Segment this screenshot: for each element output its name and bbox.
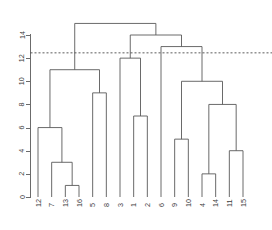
leaf-label: 16 xyxy=(75,199,84,207)
leaf-label: 2 xyxy=(143,203,152,207)
leaf-label: 1 xyxy=(129,203,138,207)
dendrogram-link xyxy=(93,93,107,197)
y-tick-label: 2 xyxy=(18,172,27,176)
y-tick-label: 8 xyxy=(18,102,27,106)
dendrogram-link xyxy=(50,70,100,128)
dendrogram-link xyxy=(175,139,189,197)
dendrogram-link xyxy=(202,174,216,197)
leaf-label: 6 xyxy=(157,203,166,207)
leaf-label: 13 xyxy=(61,199,70,207)
y-tick-label: 4 xyxy=(18,149,27,153)
leaf-label: 5 xyxy=(88,203,97,207)
dendrogram-link xyxy=(229,151,243,197)
leaf-label: 12 xyxy=(34,199,43,207)
dendrogram-link xyxy=(52,162,73,197)
leaf-label: 14 xyxy=(211,199,220,207)
y-tick-group: 02468101214 xyxy=(18,31,31,199)
leaf-label: 9 xyxy=(170,203,179,207)
y-tick-label: 6 xyxy=(18,126,27,130)
dendrogram-link xyxy=(209,104,236,173)
leaf-label: 4 xyxy=(198,203,207,207)
y-tick-label: 14 xyxy=(18,31,27,39)
dendrogram-link xyxy=(134,116,148,197)
leaf-label: 7 xyxy=(47,203,56,207)
dendrogram-link xyxy=(120,58,141,197)
leaf-label: 3 xyxy=(116,203,125,207)
dendrogram-canvas: 02468101214 12713165831269104141115 xyxy=(0,0,272,230)
y-tick-label: 10 xyxy=(18,77,27,85)
dendrogram-link xyxy=(75,23,156,69)
leaf-label: 11 xyxy=(225,200,234,207)
dendrogram-plot: 02468101214 12713165831269104141115 xyxy=(0,0,272,230)
leaf-label: 15 xyxy=(239,199,248,207)
leaf-label: 8 xyxy=(102,203,111,207)
y-tick-label: 0 xyxy=(18,195,27,199)
y-tick-label: 12 xyxy=(18,54,27,62)
y-axis-group: 02468101214 xyxy=(18,31,31,199)
leaf-label: 10 xyxy=(184,199,193,207)
leaf-label-group: 12713165831269104141115 xyxy=(34,199,248,207)
dendrogram-links-group xyxy=(38,23,243,197)
dendrogram-link xyxy=(65,185,79,197)
dendrogram-link xyxy=(182,81,223,139)
